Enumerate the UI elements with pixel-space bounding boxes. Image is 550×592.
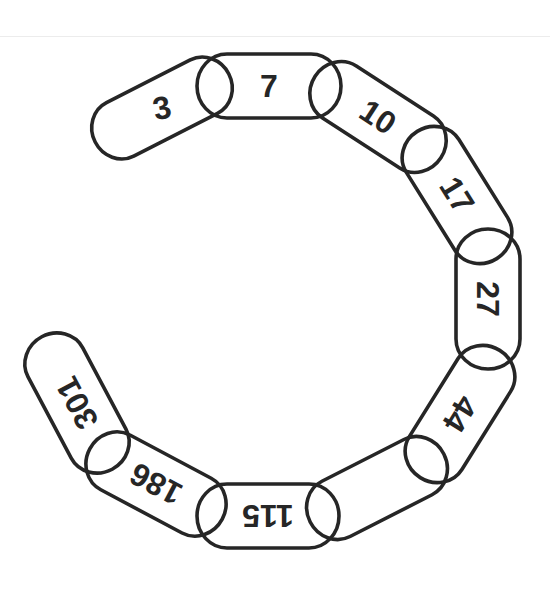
link-number-label: 7 — [260, 68, 278, 104]
chain-links: 3710172744115186301 — [14, 47, 526, 549]
chain-link-3: 3 — [82, 47, 243, 169]
link-number-label: 115 — [242, 498, 294, 534]
chain-link-186: 186 — [75, 421, 237, 546]
link-number-label: 44 — [435, 389, 484, 438]
link-number-label: 301 — [49, 371, 106, 435]
chain-link-115: 115 — [197, 484, 339, 548]
chain-link-44: 44 — [394, 334, 526, 494]
link-number-label: 17 — [432, 170, 481, 219]
link-number-label: 10 — [353, 92, 402, 142]
number-chain-diagram: 3710172744115186301 — [0, 0, 550, 592]
link-number-label: 3 — [150, 89, 175, 128]
link-number-label: 186 — [124, 456, 188, 513]
link-number-label: 27 — [470, 281, 506, 317]
chain-link-27: 27 — [456, 229, 520, 369]
chain-link-10: 10 — [298, 50, 458, 184]
chain-link-301: 301 — [14, 322, 139, 484]
